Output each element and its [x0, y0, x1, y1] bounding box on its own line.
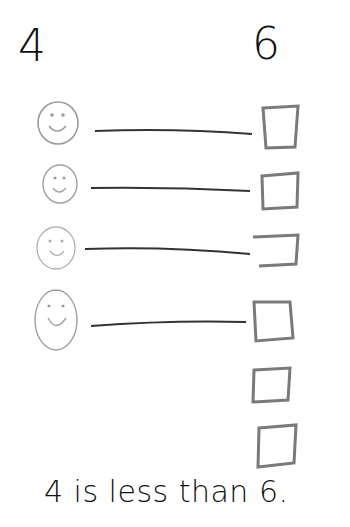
smiley-face-icon: [43, 165, 77, 203]
matching-line: [95, 130, 252, 134]
matching-drawing: [0, 0, 350, 527]
matching-line: [91, 322, 246, 327]
comparison-caption: 4 is less than 6.: [44, 474, 289, 509]
matching-line: [91, 188, 250, 191]
square-icon: [253, 368, 290, 402]
square-icon: [263, 106, 298, 148]
square-icon: [254, 302, 293, 341]
square-icon: [253, 235, 298, 266]
smiley-face-icon: [37, 227, 75, 269]
matching-line: [85, 248, 250, 254]
smiley-face-icon: [35, 290, 77, 350]
smiley-face-icon: [38, 102, 78, 144]
square-icon: [258, 425, 296, 467]
square-icon: [262, 173, 298, 209]
